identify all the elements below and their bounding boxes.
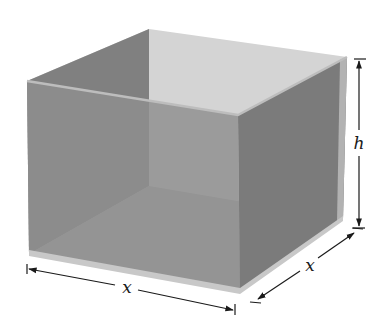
box-diagram: h x x xyxy=(0,0,389,336)
box-drawing xyxy=(0,0,389,336)
width-label: x xyxy=(120,279,134,296)
height-label: h xyxy=(352,135,367,152)
depth-label: x xyxy=(303,257,317,274)
